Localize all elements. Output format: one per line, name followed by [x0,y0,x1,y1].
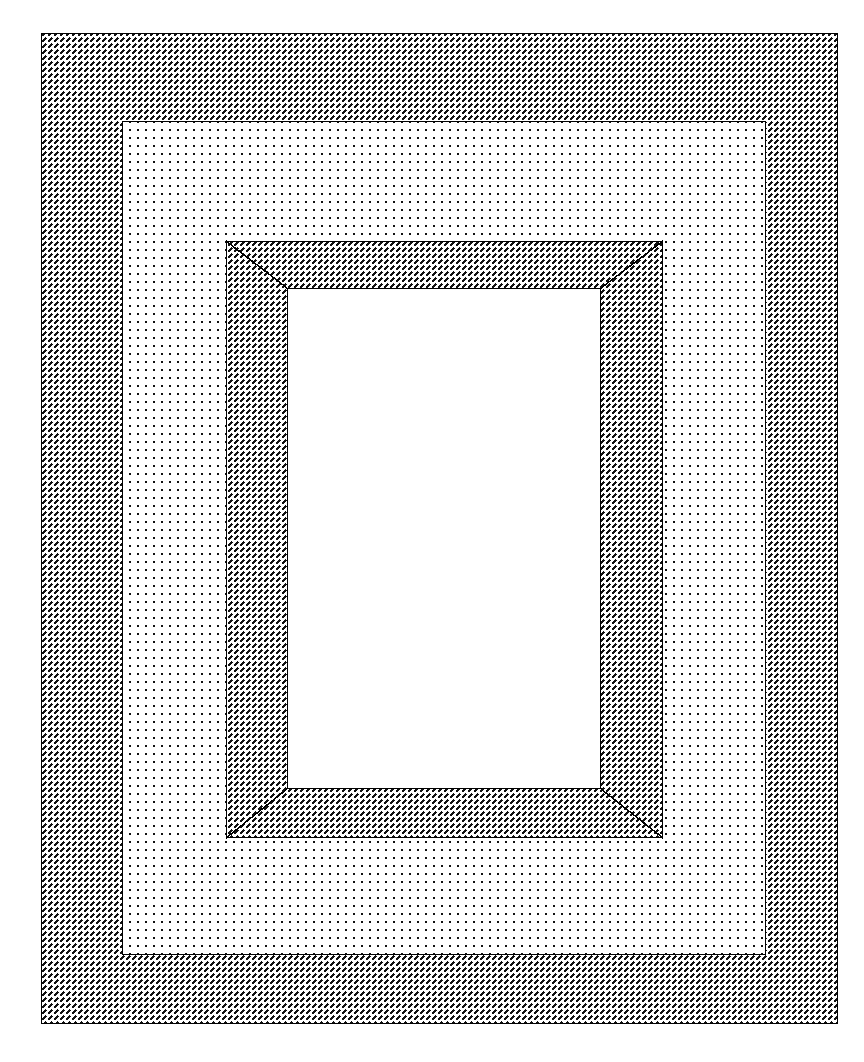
picture-opening [287,288,601,789]
frame-cross-section-drawing [0,0,864,1062]
drawing-canvas [0,0,864,1062]
